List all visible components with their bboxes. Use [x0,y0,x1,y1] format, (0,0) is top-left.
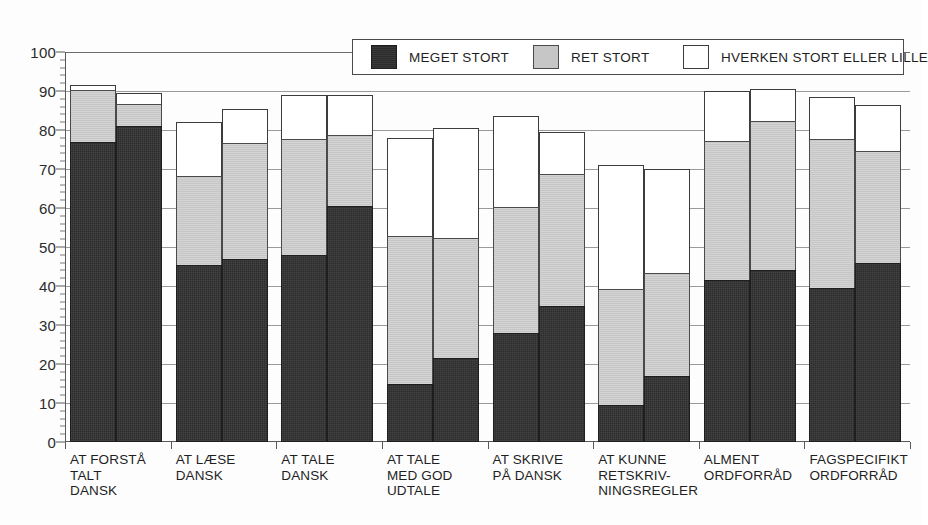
bar-segment-ret [176,176,222,266]
bar-8b [855,102,901,441]
y-axis-label-90: 90 [10,83,56,100]
bar-segment-ret [855,151,901,264]
y-tick-minor-14 [60,387,65,388]
y-tick-minor-64 [60,192,65,193]
y-tick-minor-66 [60,184,65,185]
y-tick-major-0 [56,442,65,443]
bar-segment-meget [493,333,539,442]
bar-segment-meget [387,384,433,443]
y-tick-minor-22 [60,356,65,357]
bar-segment-ret [598,289,644,406]
y-tick-minor-8 [60,410,65,411]
bar-segment-ret [116,104,162,127]
y-tick-minor-94 [60,75,65,76]
bar-segment-meget [855,263,901,442]
bar-segment-hver [855,105,901,152]
bar-3a [281,92,327,441]
legend-label-3: HVERKEN STORT ELLER LILLE [721,50,928,65]
legend-label-1: MEGET STORT [409,50,509,65]
x-tick-4 [382,442,383,449]
bar-segment-ret [809,139,855,289]
y-tick-minor-92 [60,83,65,84]
bar-1a [70,82,116,441]
chart-legend: MEGET STORTRET STORTHVERKEN STORT ELLER … [352,39,904,75]
bar-segment-ret [433,238,479,359]
bar-segment-hver [327,95,373,136]
bar-segment-hver [222,109,268,144]
bar-segment-ret [493,207,539,334]
bar-segment-hver [809,97,855,140]
y-tick-minor-18 [60,371,65,372]
bar-segment-meget [281,255,327,442]
x-tick-2 [171,442,172,449]
bar-segment-hver [598,165,644,290]
y-tick-minor-72 [60,161,65,162]
x-tick-7 [699,442,700,449]
bar-segment-hver [281,95,327,140]
bar-7a [704,88,750,441]
category-label-4: AT TALE MED GOD UDTALE [387,452,453,499]
y-tick-minor-62 [60,200,65,201]
category-label-3: AT TALE DANSK [281,452,334,483]
plot-area [65,52,910,442]
bar-segment-meget [704,280,750,442]
y-tick-minor-12 [60,395,65,396]
bar-segment-hver [539,132,585,175]
bar-segment-hver [433,128,479,239]
y-tick-major-60 [56,208,65,209]
y-tick-minor-74 [60,153,65,154]
y-axis-label-20: 20 [10,356,56,373]
y-tick-minor-38 [60,293,65,294]
bar-7b [750,86,796,441]
bar-segment-meget [433,358,479,442]
category-label-1: AT FORSTÅ TALT DANSK [70,452,146,499]
y-tick-minor-52 [60,239,65,240]
bar-segment-hver [387,138,433,237]
bar-segment-hver [750,89,796,122]
y-tick-minor-86 [60,106,65,107]
bar-segment-hver [176,122,222,177]
bar-2a [176,119,222,441]
bar-segment-hver [644,169,690,274]
y-axis-label-70: 70 [10,161,56,178]
bar-4b [433,125,479,441]
y-tick-minor-82 [60,122,65,123]
bar-segment-meget [644,376,690,442]
y-tick-minor-78 [60,137,65,138]
y-tick-minor-26 [60,340,65,341]
y-tick-major-80 [56,130,65,131]
y-tick-minor-68 [60,176,65,177]
bar-segment-meget [598,405,644,442]
bar-segment-ret [281,139,327,256]
y-tick-major-20 [56,364,65,365]
legend-label-2: RET STORT [571,50,649,65]
y-tick-minor-2 [60,434,65,435]
y-tick-minor-56 [60,223,65,224]
y-tick-minor-46 [60,262,65,263]
y-tick-major-30 [56,325,65,326]
y-tick-minor-28 [60,332,65,333]
x-tick-1 [65,442,66,449]
x-tick-6 [593,442,594,449]
legend-item-1: MEGET STORT [371,40,509,74]
bar-segment-hver [493,116,539,208]
bar-2b [222,106,268,441]
legend-item-3: HVERKEN STORT ELLER LILLE [683,40,928,74]
y-tick-major-10 [56,403,65,404]
y-tick-major-70 [56,169,65,170]
y-tick-minor-76 [60,145,65,146]
x-tick-end [910,442,911,449]
category-label-8: FAGSPECIFIKT ORDFORRÅD [809,452,908,483]
bar-segment-meget [539,306,585,443]
bar-segment-meget [176,265,222,442]
y-tick-minor-6 [60,418,65,419]
bar-segment-meget [116,126,162,442]
y-tick-minor-96 [60,67,65,68]
legend-swatch-ret-icon [533,45,559,69]
y-tick-minor-98 [60,59,65,60]
y-tick-minor-88 [60,98,65,99]
x-tick-5 [488,442,489,449]
bar-segment-ret [644,273,690,376]
bar-3b [327,92,373,441]
